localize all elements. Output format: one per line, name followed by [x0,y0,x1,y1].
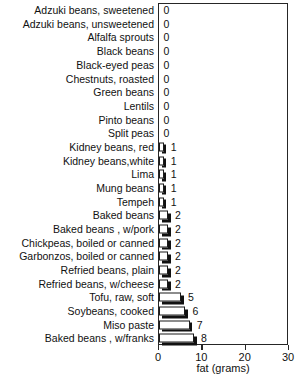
category-label: Miso paste [103,319,154,330]
bar-value-label: 0 [163,114,169,125]
category-label: Baked beans , w/pork [53,224,154,235]
bar-face [159,334,194,343]
category-label: Adzuki beans, sweetened [34,5,154,16]
bar-row: Adzuki beans, sweetened0 [0,3,307,17]
category-label: Chickpeas, boiled or canned [21,237,154,248]
category-label: Mung beans [96,182,154,193]
bar-row: Adzuki beans, unsweetened0 [0,17,307,31]
bar-value-label: 1 [171,169,177,180]
category-label: Kidney beans, red [69,141,154,152]
bar-row: Garbonzos, boiled or canned2 [0,249,307,263]
bar [159,279,168,288]
bar-row: Baked beans , w/pork2 [0,222,307,236]
bar-row: Alfalfa sprouts0 [0,30,307,44]
bar [159,211,168,220]
bar [159,225,168,234]
bar-row: Lentils0 [0,99,307,113]
bar [159,142,163,151]
bar-row: Baked beans , w/franks8 [0,331,307,345]
category-label: Lima [131,169,154,180]
bar-face [159,170,163,179]
bar-face [159,225,168,234]
bar-face [159,252,168,261]
x-axis: 0102030 [158,345,288,346]
bar-face [159,142,163,151]
bar-value-label: 1 [171,182,177,193]
bar-value-label: 1 [171,155,177,166]
bar-row: Black beans0 [0,44,307,58]
bar-chart: Adzuki beans, sweetened0Adzuki beans, un… [0,0,307,378]
bar-value-label: 2 [175,278,181,289]
bar [159,170,163,179]
bar-face [159,183,163,192]
bar-face [159,197,163,206]
category-label: Baked beans [93,210,154,221]
bar-value-label: 7 [197,319,203,330]
category-label: Garbonzos, boiled or canned [19,251,154,262]
category-label: Alfalfa sprouts [87,32,154,43]
bar-row: Chestnuts, roasted0 [0,71,307,85]
bar-row: Black-eyed peas0 [0,58,307,72]
bar [159,183,163,192]
bar-value-label: 0 [163,128,169,139]
bar-value-label: 0 [163,87,169,98]
bar [159,156,163,165]
category-label: Lentils [124,100,154,111]
bar-row: Mung beans1 [0,181,307,195]
bar-value-label: 0 [163,32,169,43]
category-label: Black beans [97,46,154,57]
bar-row: Lima1 [0,167,307,181]
bar-row: Split peas0 [0,126,307,140]
category-label: Pinto beans [99,114,154,125]
bar [159,252,168,261]
bar-value-label: 6 [192,306,198,317]
bar-rows: Adzuki beans, sweetened0Adzuki beans, un… [0,3,307,345]
bar-value-label: 2 [175,265,181,276]
category-label: Tofu, raw, soft [89,292,154,303]
bar [159,334,194,343]
bar-value-label: 0 [163,100,169,111]
bar-value-label: 2 [175,251,181,262]
category-label: Refried beans, plain [61,265,154,276]
bar-value-label: 0 [163,46,169,57]
bar-value-label: 2 [175,210,181,221]
x-axis-label: fat (grams) [158,362,288,374]
category-label: Green beans [93,87,154,98]
bar-row: Chickpeas, boiled or canned2 [0,236,307,250]
bar-row: Soybeans, cooked6 [0,304,307,318]
bar-face [159,279,168,288]
bar-row: Pinto beans0 [0,112,307,126]
bar-value-label: 2 [175,224,181,235]
category-label: Soybeans, cooked [68,306,154,317]
category-label: Refried beans, w/cheese [38,278,154,289]
category-label: Adzuki beans, unsweetened [23,18,154,29]
bar [159,293,181,302]
bar-row: Refried beans, plain2 [0,263,307,277]
bar-row: Refried beans, w/cheese2 [0,277,307,291]
bar [159,320,189,329]
bar-face [159,320,189,329]
bar [159,307,185,316]
bar-row: Tempeh1 [0,195,307,209]
bar-value-label: 0 [163,73,169,84]
category-label: Kidney beans,white [63,155,154,166]
bar-row: Tofu, raw, soft5 [0,290,307,304]
bar-row: Green beans0 [0,85,307,99]
bar-value-label: 0 [163,18,169,29]
x-tick [158,345,159,350]
bar-face [159,266,168,275]
bar-face [159,238,168,247]
bar-value-label: 5 [188,292,194,303]
bar-value-label: 1 [171,141,177,152]
category-label: Chestnuts, roasted [66,73,154,84]
bar [159,238,168,247]
category-label: Black-eyed peas [76,59,154,70]
bar [159,197,163,206]
x-tick [201,345,202,350]
bar-face [159,156,163,165]
category-label: Baked beans , w/franks [45,333,154,344]
bar-row: Miso paste7 [0,318,307,332]
bar-value-label: 1 [171,196,177,207]
bar-value-label: 0 [163,5,169,16]
bar [159,266,168,275]
